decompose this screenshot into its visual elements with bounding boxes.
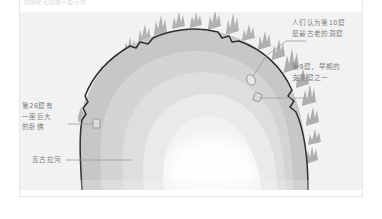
annotation-waghora-river: 瓦古拉河 (32, 155, 78, 166)
annotation-cave-26: 第26窟有 一座巨大 的卧佛 (22, 101, 84, 133)
cave-26-marker (93, 119, 100, 128)
panel-bottom-fade (20, 180, 362, 190)
page-root: 阿旃陀石窟群平面示意 (0, 0, 382, 219)
annotation-cave-10: 人们认为第10窟 是最古老的洞窟 (292, 18, 370, 39)
annotation-cave-9: 第9窟，早期的 支提窟之一 (292, 62, 370, 83)
column-rule-bottom (19, 196, 363, 197)
top-caption: 阿旃陀石窟群平面示意 (24, 0, 144, 6)
